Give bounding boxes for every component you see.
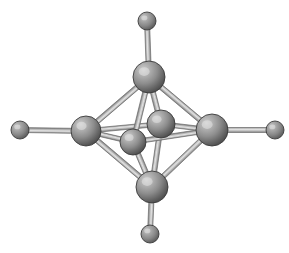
atom-sphere: core atom (rear vertex) — [147, 110, 175, 138]
atom-sphere: terminal ligand atom (bottom) — [141, 225, 159, 243]
atom-sphere: core atom (bottom vertex) — [136, 171, 168, 203]
sphere-highlight — [152, 115, 162, 123]
atom-sphere: core atom (left vertex) — [71, 116, 101, 146]
atom-sphere: core atom (front vertex) — [120, 129, 146, 155]
sphere-highlight — [125, 134, 134, 141]
sphere-highlight — [269, 125, 275, 130]
atom-sphere: terminal ligand atom (right) — [266, 121, 284, 139]
sphere-highlight — [76, 122, 86, 130]
molecular-model-figure: terminal ligand atom (top)terminal ligan… — [0, 0, 289, 253]
atom-sphere: terminal ligand atom (left) — [11, 121, 29, 139]
molecule-canvas: terminal ligand atom (top)terminal ligan… — [0, 0, 289, 253]
sphere-highlight — [142, 177, 153, 186]
sphere-highlight — [144, 229, 150, 234]
sphere-highlight — [139, 67, 150, 76]
atom-sphere: core atom (right vertex) — [196, 114, 228, 146]
sphere-highlight — [141, 16, 147, 21]
atom-sphere: terminal ligand atom (top) — [138, 12, 156, 30]
sphere-highlight — [14, 125, 20, 130]
atom-sphere: core atom (top vertex) — [133, 61, 165, 93]
sphere-highlight — [202, 120, 213, 129]
